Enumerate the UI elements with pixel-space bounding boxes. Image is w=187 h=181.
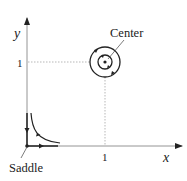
- hyperbolic-trajectory: [31, 113, 60, 143]
- phase-portrait-diagram: y x 1 1 Center Saddle: [0, 0, 187, 181]
- center-fixed-point: [90, 47, 120, 77]
- unstable-arrow-icon: [39, 144, 44, 149]
- y-tick-label: 1: [17, 57, 23, 69]
- axes: [27, 18, 182, 147]
- saddle-fixed-point: [25, 113, 61, 149]
- x-tick-label: 1: [102, 151, 108, 163]
- stable-arrow-icon: [25, 128, 30, 133]
- center-label: Center: [110, 26, 144, 40]
- center-leader-line: [108, 40, 124, 59]
- y-axis-label: y: [12, 26, 21, 41]
- x-axis-label: x: [162, 150, 170, 165]
- saddle-label: Saddle: [9, 161, 43, 175]
- guide-lines: [28, 62, 105, 146]
- center-point: [103, 60, 106, 63]
- saddle-leader-line: [21, 147, 27, 158]
